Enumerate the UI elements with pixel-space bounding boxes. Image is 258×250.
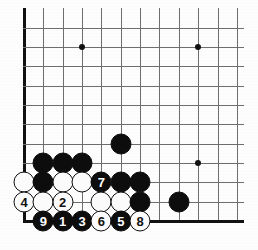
star-point-right-icon xyxy=(195,44,201,50)
stone-black-move-5[interactable]: 5 xyxy=(110,211,131,232)
stone-black[interactable] xyxy=(52,152,73,173)
stone-black-move-7[interactable]: 7 xyxy=(91,172,112,193)
stone-black[interactable] xyxy=(33,152,54,173)
grid-line-horizontal xyxy=(23,124,244,125)
stone-move-number: 3 xyxy=(78,215,85,228)
stone-white[interactable] xyxy=(91,191,112,212)
stone-move-number: 8 xyxy=(136,215,143,228)
stone-move-number: 5 xyxy=(117,215,124,228)
grid-line-vertical xyxy=(237,8,238,222)
stone-black[interactable] xyxy=(72,152,93,173)
stone-move-number: 7 xyxy=(98,176,105,189)
grid-line-horizontal xyxy=(23,144,244,145)
grid-line-horizontal xyxy=(23,86,244,87)
stone-move-number: 9 xyxy=(40,215,47,228)
stone-white-move-8[interactable]: 8 xyxy=(130,211,151,232)
stone-white[interactable] xyxy=(33,191,54,212)
stone-white[interactable] xyxy=(72,172,93,193)
stone-white[interactable] xyxy=(14,172,35,193)
stone-move-number: 1 xyxy=(59,215,66,228)
grid-line-horizontal xyxy=(23,47,244,48)
stone-black-move-3[interactable]: 3 xyxy=(72,211,93,232)
stone-black[interactable] xyxy=(130,191,151,212)
stone-black-move-1[interactable]: 1 xyxy=(52,211,73,232)
grid-line-vertical xyxy=(198,8,199,222)
stone-white[interactable] xyxy=(52,172,73,193)
stone-move-number: 2 xyxy=(59,195,66,208)
stone-black[interactable] xyxy=(110,133,131,154)
stone-white-move-2[interactable]: 2 xyxy=(52,191,73,212)
stone-white-move-6[interactable]: 6 xyxy=(91,211,112,232)
stone-move-number: 6 xyxy=(98,215,105,228)
stone-black[interactable] xyxy=(130,172,151,193)
stone-black[interactable] xyxy=(33,172,54,193)
board-surface: 742913658 xyxy=(0,0,258,250)
stone-white[interactable] xyxy=(110,191,131,212)
stone-move-number: 4 xyxy=(20,195,27,208)
stone-black[interactable] xyxy=(110,172,131,193)
grid-line-horizontal xyxy=(23,66,244,67)
grid-line-vertical xyxy=(179,8,180,222)
grid-line-horizontal xyxy=(23,28,244,29)
grid-line-vertical xyxy=(218,8,219,222)
grid-line-horizontal xyxy=(23,105,244,106)
stone-black[interactable] xyxy=(168,191,189,212)
grid-line-vertical xyxy=(159,8,160,222)
star-point-lower-right-icon xyxy=(195,160,201,166)
stone-white-move-4[interactable]: 4 xyxy=(14,191,35,212)
stone-black-move-9[interactable]: 9 xyxy=(33,211,54,232)
go-board-diagram: 742913658 xyxy=(0,0,258,250)
star-point-left-icon xyxy=(79,44,85,50)
